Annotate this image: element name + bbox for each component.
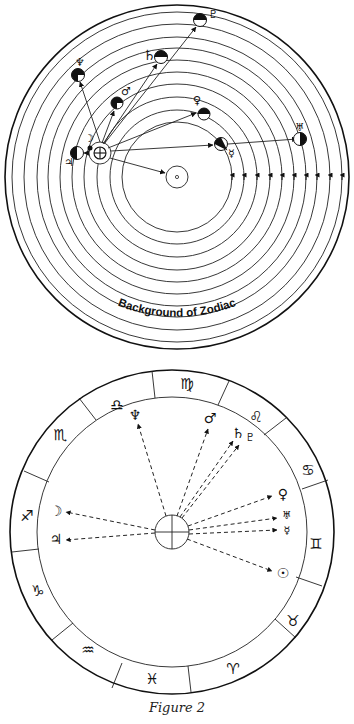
earth-icon — [89, 142, 111, 164]
zodiac-signs: ♎ ♍ ♌ ♋ ♊ ♉ ♈ ♓ ♒ ♑ ♐ ♏ — [20, 375, 322, 688]
planet-saturn: ♄ — [143, 47, 168, 64]
sign-scorpio: ♏ — [53, 426, 67, 444]
sign-aries: ♈ — [226, 660, 239, 678]
projection-lines — [66, 424, 277, 571]
sign-cancer: ♋ — [301, 461, 314, 479]
earth-icon — [155, 515, 189, 549]
wheel-inner-ring — [37, 397, 307, 667]
sign-leo: ♌ — [249, 408, 262, 426]
sign-aquarius: ♒ — [81, 641, 94, 659]
planet-jupiter: ♃ — [64, 147, 84, 170]
sun-icon — [166, 166, 188, 188]
sign-pisces: ♓ — [145, 670, 158, 688]
svg-text:♀: ♀ — [193, 94, 201, 107]
sign-capricorn: ♑ — [31, 582, 44, 600]
label-jupiter: ♃ — [50, 531, 63, 547]
label-venus: ♀ — [278, 486, 288, 502]
planet-neptune: ♆ — [72, 56, 85, 82]
label-neptune: ♆ — [129, 407, 142, 423]
svg-text:☿: ☿ — [228, 147, 235, 160]
svg-text:♂: ♂ — [121, 85, 131, 98]
planet-mercury: ☿ — [215, 138, 235, 161]
sign-taurus: ♉ — [286, 612, 299, 630]
label-sun: ☉ — [277, 565, 290, 581]
svg-text:♆: ♆ — [75, 56, 85, 69]
svg-text:♅: ♅ — [295, 121, 305, 134]
figure-caption: Figure 2 — [0, 700, 354, 715]
planet-moon: ☽ — [84, 132, 94, 151]
planet-pluto: ♇ — [194, 8, 218, 27]
sign-virgo: ♍ — [180, 375, 193, 393]
planet-venus: ♀ — [193, 94, 210, 120]
wheel-outer-ring — [10, 370, 334, 694]
label-uranus: ♅ — [282, 509, 292, 522]
label-moon: ☽ — [50, 503, 63, 519]
planet-uranus: ♅ — [294, 121, 307, 146]
orbit-direction-ticks — [232, 175, 342, 180]
svg-text:♃: ♃ — [64, 156, 74, 169]
planet-labels: ♆ ♂ ♄ ♇ ♀ ♅ ☿ ☉ ☽ ♃ — [50, 407, 292, 581]
sign-libra: ♎ — [110, 396, 123, 414]
svg-text:♇: ♇ — [208, 8, 218, 21]
sign-dividers — [12, 371, 328, 692]
label-mars: ♂ — [204, 410, 217, 426]
planet-mars: ♂ — [111, 85, 131, 109]
svg-text:♄: ♄ — [143, 47, 156, 63]
label-saturn: ♄ — [232, 425, 245, 441]
svg-text:☽: ☽ — [84, 132, 94, 145]
label-pluto: ♇ — [245, 431, 255, 444]
heliocentric-diagram: ♇ ♄ ♆ ♂ ♀ ☿ ♅ ♃ ☽ Bac — [0, 0, 354, 360]
sign-sagittarius: ♐ — [20, 507, 33, 525]
label-mercury: ☿ — [284, 524, 291, 537]
sign-gemini: ♊ — [309, 535, 322, 553]
